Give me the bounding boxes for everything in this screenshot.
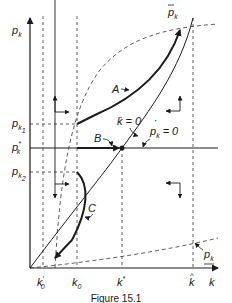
path-C-label: C: [88, 202, 96, 214]
p-underbar-k-label: pk: [203, 248, 214, 262]
phase-diagram: pk k pk1 p*k pk2 k′0 k0 k* k ^ pk k̇ = 0…: [0, 0, 232, 303]
path-B-label: B: [94, 132, 101, 144]
k-dot-zero-label: k̇ = 0: [117, 115, 142, 127]
pk1-label: pk1: [11, 117, 26, 134]
k0-prime-label: k′0: [37, 275, 45, 290]
k-star-label: k*: [117, 275, 126, 288]
C-leader: [85, 214, 93, 218]
direction-arrows-lower-right: [166, 183, 180, 198]
figure-caption: Figure 15.1: [91, 293, 142, 303]
path-A-label: A: [111, 83, 119, 95]
p-dot-accent: ·: [154, 115, 157, 126]
pk2-label: pk2: [11, 165, 26, 182]
p-underbar-k-curve: [30, 238, 218, 268]
direction-arrows-lower-left: [55, 0, 69, 198]
path-A: [77, 30, 180, 124]
y-axis-label: pk: [11, 24, 22, 38]
p-dot-k-zero-label: pk= 0: [149, 125, 179, 139]
A-leader: [121, 89, 129, 90]
equilibrium-point: [120, 146, 125, 151]
direction-arrows-upper-right: [166, 96, 180, 111]
k-hat-accent: ^: [190, 271, 194, 280]
p-bar-k-label: pk: [167, 6, 178, 20]
x-axis-label: k: [209, 276, 215, 288]
direction-arrows-upper-left: [55, 96, 69, 112]
p-dot-zero-leader: [143, 139, 150, 147]
k0-label: k0: [72, 276, 82, 290]
p-underbar-leader: [195, 243, 203, 250]
pk-star-label: p*k: [11, 140, 21, 155]
p-bar-k-curve: [55, 24, 218, 268]
B-leader: [103, 139, 112, 146]
